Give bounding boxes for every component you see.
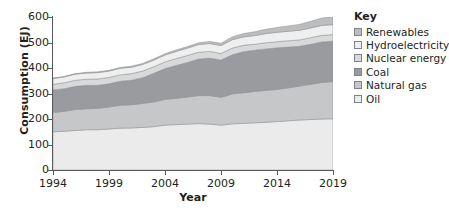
legend-item-oil: Oil — [354, 92, 448, 105]
x-tick-mark — [333, 170, 334, 175]
x-tick-label: 1999 — [86, 177, 132, 190]
y-tick-mark — [47, 170, 52, 171]
legend-swatch-icon — [354, 54, 362, 62]
x-tick-label: 2019 — [310, 177, 356, 190]
legend-item-renewables: Renewables — [354, 25, 448, 38]
legend-item-natural-gas: Natural gas — [354, 79, 448, 92]
legend-item-coal: Coal — [354, 65, 448, 78]
x-tick-mark — [221, 170, 222, 175]
x-axis-title: Year — [53, 191, 333, 204]
y-tick-label: 0 — [14, 165, 49, 175]
y-tick-mark — [47, 43, 52, 44]
legend-item-label: Hydroelectricity — [366, 39, 449, 51]
legend-item-nuclear-energy: Nuclear energy — [354, 52, 448, 65]
x-tick-mark — [277, 170, 278, 175]
y-tick-label: 300 — [14, 89, 49, 99]
chart-legend: Key RenewablesHydroelectricityNuclear en… — [354, 10, 448, 105]
y-tick-mark — [47, 17, 52, 18]
plot-area — [53, 17, 333, 170]
x-axis-line — [52, 170, 334, 171]
x-tick-mark — [53, 170, 54, 175]
legend-swatch-icon — [354, 28, 362, 36]
legend-swatch-icon — [354, 41, 362, 49]
x-tick-label: 2004 — [142, 177, 188, 190]
y-tick-mark — [47, 68, 52, 69]
legend-swatch-icon — [354, 95, 362, 103]
legend-title: Key — [354, 10, 448, 23]
x-tick-label: 2009 — [198, 177, 244, 190]
y-tick-mark — [47, 94, 52, 95]
x-tick-mark — [165, 170, 166, 175]
y-tick-mark — [47, 145, 52, 146]
y-tick-label: 500 — [14, 38, 49, 48]
x-tick-label: 2014 — [254, 177, 300, 190]
y-tick-label: 200 — [14, 114, 49, 124]
legend-item-label: Nuclear energy — [366, 52, 446, 64]
y-tick-label: 400 — [14, 63, 49, 73]
x-tick-mark — [109, 170, 110, 175]
y-tick-mark — [47, 119, 52, 120]
stacked-area-series — [53, 17, 333, 170]
legend-item-label: Renewables — [366, 26, 429, 38]
legend-item-label: Coal — [366, 66, 389, 78]
y-tick-label: 100 — [14, 140, 49, 150]
x-tick-label: 1994 — [30, 177, 76, 190]
y-axis-line — [52, 16, 53, 171]
legend-swatch-icon — [354, 81, 362, 89]
legend-item-label: Oil — [366, 93, 380, 105]
legend-item-hydroelectricity: Hydroelectricity — [354, 38, 448, 51]
legend-item-label: Natural gas — [366, 79, 427, 91]
y-tick-label: 600 — [14, 12, 49, 22]
legend-swatch-icon — [354, 68, 362, 76]
